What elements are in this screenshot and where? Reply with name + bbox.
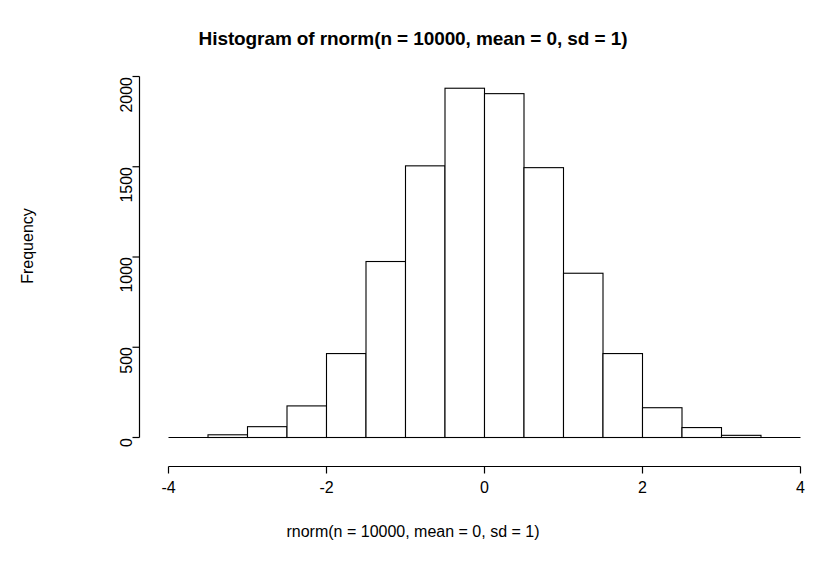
x-axis-tick-label: 2 [638, 479, 647, 497]
y-axis-title: Frequency [19, 166, 37, 326]
y-axis-tick-label: 0 [118, 438, 136, 447]
x-axis-tick-label: -4 [161, 479, 175, 497]
histogram-plot: Histogram of rnorm(n = 10000, mean = 0, … [0, 0, 826, 580]
histogram-bar [366, 262, 406, 438]
y-axis-tick-label: 1000 [118, 257, 136, 293]
y-axis-tick-label: 500 [118, 347, 136, 374]
x-axis-title: rnorm(n = 10000, mean = 0, sd = 1) [0, 523, 826, 541]
histogram-bar [327, 354, 367, 438]
histogram-bar [643, 408, 683, 438]
x-axis-tick-label: 4 [796, 479, 805, 497]
y-axis-tick-label: 2000 [118, 77, 136, 113]
x-axis-tick-label: 0 [480, 479, 489, 497]
histogram-bar [524, 168, 564, 438]
histogram-bar [287, 406, 327, 438]
histogram-bar [406, 166, 446, 438]
histogram-bar [682, 428, 722, 438]
histogram-bar [248, 427, 288, 438]
histogram-bar [564, 273, 604, 437]
y-axis-tick-label: 1500 [118, 167, 136, 203]
histogram-bar [603, 354, 643, 438]
x-axis-tick-label: -2 [319, 479, 333, 497]
histogram-bar [485, 94, 525, 438]
histogram-bars [208, 88, 761, 437]
histogram-bar [445, 88, 485, 437]
